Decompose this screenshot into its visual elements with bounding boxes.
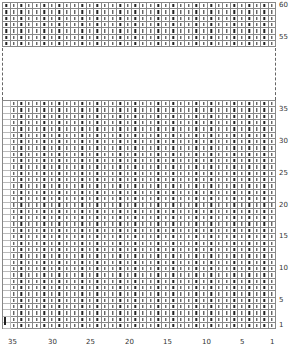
knit-stitch-icon xyxy=(117,41,125,47)
knit-stitch-icon xyxy=(200,41,208,47)
knit-stitch-icon xyxy=(64,323,72,329)
knit-stitch-icon xyxy=(56,323,64,329)
gap-right-dashed-edge xyxy=(275,48,277,100)
knit-stitch-icon xyxy=(71,323,79,329)
knit-stitch-icon xyxy=(238,323,246,329)
knit-stitch-icon xyxy=(49,41,57,47)
knit-stitch-icon xyxy=(155,323,163,329)
knit-stitch-icon xyxy=(261,323,269,329)
column-label: 5 xyxy=(240,338,244,346)
knit-stitch-icon xyxy=(3,41,11,47)
knit-stitch-icon xyxy=(223,41,231,47)
knit-stitch-icon xyxy=(216,41,224,47)
row-label: 1 xyxy=(279,322,290,329)
gap-left-dashed-edge xyxy=(2,48,4,100)
knit-stitch-icon xyxy=(147,41,155,47)
row-label: 30 xyxy=(279,138,290,145)
knit-stitch-icon xyxy=(269,323,277,329)
column-label: 20 xyxy=(125,338,134,346)
chart-bottom-block xyxy=(2,100,276,329)
row-label: 20 xyxy=(279,202,290,209)
knit-stitch-icon xyxy=(132,41,140,47)
column-label: 35 xyxy=(8,338,17,346)
knit-stitch-icon xyxy=(79,41,87,47)
knit-stitch-icon xyxy=(170,323,178,329)
knit-stitch-icon xyxy=(41,323,49,329)
knit-stitch-icon xyxy=(56,41,64,47)
knit-stitch-icon xyxy=(109,41,117,47)
column-label: 10 xyxy=(202,338,211,346)
row-label: 5 xyxy=(279,297,290,304)
knit-stitch-icon xyxy=(11,323,19,329)
knit-stitch-icon xyxy=(246,323,254,329)
side-marker-icon xyxy=(4,317,6,325)
knit-stitch-icon xyxy=(200,323,208,329)
column-label: 15 xyxy=(163,338,172,346)
knit-stitch-icon xyxy=(94,41,102,47)
knit-stitch-icon xyxy=(71,41,79,47)
knit-stitch-icon xyxy=(18,41,26,47)
knit-stitch-icon xyxy=(147,323,155,329)
knit-stitch-icon xyxy=(94,323,102,329)
knit-stitch-icon xyxy=(170,41,178,47)
knit-stitch-icon xyxy=(26,323,34,329)
knit-stitch-icon xyxy=(223,323,231,329)
column-label: 1 xyxy=(270,338,274,346)
row-label: 35 xyxy=(279,106,290,113)
knit-stitch-icon xyxy=(208,41,216,47)
column-label: 30 xyxy=(48,338,57,346)
knit-stitch-icon xyxy=(193,41,201,47)
knit-stitch-icon xyxy=(109,323,117,329)
row-label: 60 xyxy=(279,2,290,9)
knit-stitch-icon xyxy=(238,41,246,47)
knit-stitch-icon xyxy=(87,323,95,329)
knit-stitch-icon xyxy=(155,41,163,47)
row-label: 55 xyxy=(279,34,290,41)
knit-stitch-icon xyxy=(41,41,49,47)
knit-stitch-icon xyxy=(140,323,148,329)
knit-stitch-icon xyxy=(64,41,72,47)
knit-stitch-icon xyxy=(178,323,186,329)
knit-stitch-icon xyxy=(79,323,87,329)
knit-stitch-icon xyxy=(246,41,254,47)
knit-stitch-icon xyxy=(254,41,262,47)
knit-stitch-icon xyxy=(125,41,133,47)
knit-stitch-icon xyxy=(193,323,201,329)
knit-stitch-icon xyxy=(33,323,41,329)
row-label: 10 xyxy=(279,265,290,272)
knit-stitch-icon xyxy=(11,41,19,47)
knit-stitch-icon xyxy=(102,323,110,329)
knit-stitch-icon xyxy=(185,41,193,47)
knit-stitch-icon xyxy=(26,41,34,47)
knit-stitch-icon xyxy=(49,323,57,329)
knit-stitch-icon xyxy=(117,323,125,329)
knit-stitch-icon xyxy=(33,41,41,47)
knit-stitch-icon xyxy=(261,41,269,47)
knit-stitch-icon xyxy=(185,323,193,329)
knit-stitch-icon xyxy=(231,41,239,47)
knit-stitch-icon xyxy=(162,41,170,47)
knit-stitch-icon xyxy=(231,323,239,329)
knit-stitch-icon xyxy=(125,323,133,329)
knit-stitch-icon xyxy=(18,323,26,329)
knit-stitch-icon xyxy=(87,41,95,47)
knit-stitch-icon xyxy=(102,41,110,47)
knit-stitch-icon xyxy=(132,323,140,329)
knit-stitch-icon xyxy=(269,41,277,47)
knit-stitch-icon xyxy=(254,323,262,329)
row-label: 15 xyxy=(279,233,290,240)
knit-stitch-icon xyxy=(216,323,224,329)
row-label: 25 xyxy=(279,170,290,177)
knit-stitch-icon xyxy=(208,323,216,329)
chart-top-block xyxy=(2,2,276,47)
knit-stitch-icon xyxy=(178,41,186,47)
knit-stitch-icon xyxy=(162,323,170,329)
knit-stitch-icon xyxy=(140,41,148,47)
column-label: 25 xyxy=(86,338,95,346)
